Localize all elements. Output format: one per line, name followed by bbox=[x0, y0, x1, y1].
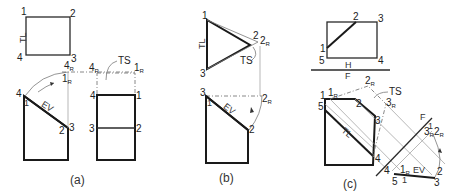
rotated-label-1r: 1R bbox=[400, 164, 411, 176]
ev-label: EV bbox=[413, 165, 425, 175]
ts-callout: TS bbox=[240, 55, 253, 66]
label-3: 3 bbox=[200, 87, 206, 98]
label-2: 2 bbox=[253, 30, 259, 41]
label-2: 2 bbox=[136, 123, 142, 134]
label-4: 4 bbox=[375, 153, 381, 164]
label-3: 3 bbox=[434, 177, 440, 188]
label-2: 2 bbox=[249, 124, 255, 135]
rotated-label-1r: 1R bbox=[134, 62, 145, 74]
label-3: 3 bbox=[375, 115, 381, 126]
tl-label: TL bbox=[18, 32, 28, 43]
ts-callout: TS bbox=[389, 86, 402, 97]
label-5: 5 bbox=[318, 101, 324, 112]
projection-line bbox=[330, 99, 400, 170]
label-1: 1 bbox=[402, 175, 407, 185]
label-4: 4 bbox=[378, 55, 384, 66]
label-3: 3 bbox=[378, 13, 384, 24]
label-4: 4 bbox=[384, 165, 390, 176]
parallel-line bbox=[325, 104, 373, 148]
fold-label-h: H bbox=[345, 60, 352, 70]
ev-label: EV bbox=[222, 101, 238, 116]
label-2: 2 bbox=[70, 8, 76, 19]
rotated-label-2r: 2R bbox=[262, 93, 273, 105]
fold-label-f: F bbox=[420, 112, 426, 122]
ts-leader-line bbox=[106, 61, 117, 80]
panel-a-rotated-face bbox=[97, 73, 135, 95]
label-3: 3 bbox=[200, 68, 206, 79]
label-2: 2 bbox=[437, 166, 443, 177]
label-4: 4 bbox=[16, 88, 22, 99]
label-4: 4 bbox=[17, 52, 23, 63]
fold-label-f: F bbox=[345, 71, 351, 81]
rotated-label-3r2r: 3R2R bbox=[424, 126, 444, 138]
tl-label: TL bbox=[197, 38, 207, 49]
label-3: 3 bbox=[69, 122, 75, 133]
rotated-label-3r: 3R bbox=[386, 97, 397, 109]
label-1: 1 bbox=[207, 98, 212, 108]
panel-b: 1 2 3 2R TL TS 3 1 2 2R EV (b) bbox=[197, 10, 273, 185]
projection-line bbox=[392, 131, 432, 171]
caption-b: (b) bbox=[219, 171, 234, 185]
label-1: 1 bbox=[21, 6, 27, 17]
rotated-label-2r: 2R bbox=[260, 35, 271, 47]
rotated-label-4r: 4R bbox=[89, 62, 100, 74]
rotated-edge bbox=[207, 20, 258, 42]
rotated-label-1r: 1R bbox=[62, 73, 73, 85]
label-3: 3 bbox=[71, 53, 77, 64]
label-1: 1 bbox=[24, 98, 29, 108]
rotated-label-1r: 1R bbox=[328, 87, 339, 99]
label-2: 2 bbox=[356, 98, 362, 109]
label-3: 3 bbox=[89, 123, 95, 134]
rotated-label-2r: 2R bbox=[365, 75, 376, 87]
panel-c: 2 3 4 1 5 H F 1 5 2 3 4 1R 2R 3R TS TL F… bbox=[311, 11, 445, 191]
label-5: 5 bbox=[319, 55, 325, 66]
label-2: 2 bbox=[353, 11, 359, 22]
ts-callout: TS bbox=[118, 55, 131, 66]
label-2: 2 bbox=[59, 125, 65, 136]
drawing-canvas: 1 2 3 4 TL 4 1 2 3 EV 4R 1R 4 1 3 2 4R 1… bbox=[0, 0, 455, 196]
caption-c: (c) bbox=[343, 177, 357, 191]
label-4: 4 bbox=[90, 90, 96, 101]
label-1: 1 bbox=[136, 90, 142, 101]
panel-a: 1 2 3 4 TL 4 1 2 3 EV 4R 1R 4 1 3 2 4R 1… bbox=[16, 6, 145, 187]
ev-label: EV bbox=[40, 99, 56, 114]
arrowhead-icon bbox=[50, 82, 54, 86]
label-1: 1 bbox=[202, 10, 208, 21]
arrowhead-icon bbox=[250, 107, 254, 113]
panel-a-top-view bbox=[26, 17, 70, 55]
caption-a: (a) bbox=[70, 173, 85, 187]
label-5: 5 bbox=[392, 176, 398, 187]
orthographic-projection-figure: 1 2 3 4 TL 4 1 2 3 EV 4R 1R 4 1 3 2 4R 1… bbox=[0, 0, 455, 196]
diagonal-edge bbox=[327, 22, 356, 48]
label-1: 1 bbox=[320, 90, 326, 101]
label-1: 1 bbox=[320, 43, 326, 54]
